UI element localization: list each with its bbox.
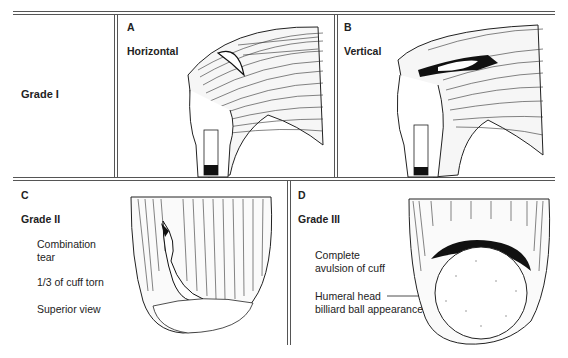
shoulder-horizontal-tear-illustration (118, 15, 334, 177)
panel-a: A Horizontal (118, 15, 334, 177)
shoulder-vertical-tear-illustration (338, 15, 555, 177)
cuff-combination-tear-illustration (13, 181, 287, 358)
cuff-complete-avulsion-illustration (291, 181, 555, 358)
row-label-grade-1: Grade I (21, 88, 59, 100)
separator-label-a-1 (114, 14, 115, 177)
middle-rule-1 (13, 177, 555, 178)
panel-c: C Grade II Combination tear 1/3 of cuff … (13, 181, 287, 358)
panel-b: B Vertical (338, 15, 555, 177)
separator-a-b-1 (334, 14, 335, 177)
separator-c-d-1 (287, 180, 288, 345)
panel-d: D Grade III Complete avulsion of cuff Hu… (291, 181, 555, 358)
top-rule-1 (13, 11, 555, 12)
